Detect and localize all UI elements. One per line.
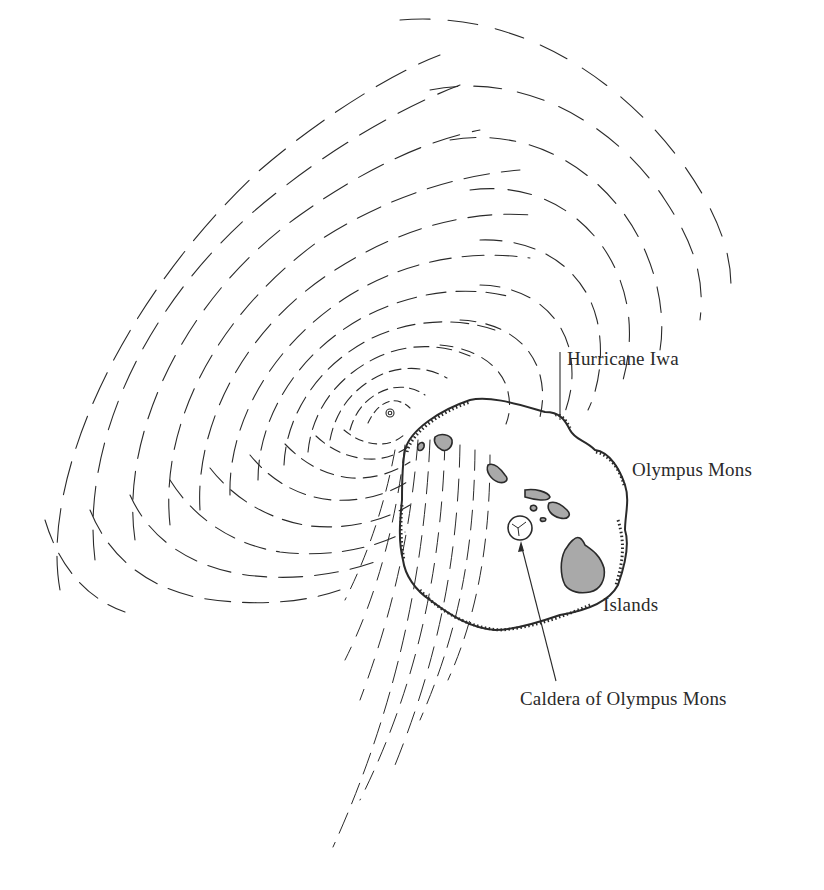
island-hawaii bbox=[561, 538, 604, 593]
olympus-escarpment-hatching bbox=[401, 402, 624, 630]
islands-label: Islands bbox=[603, 595, 658, 614]
caldera bbox=[508, 516, 532, 540]
hurricane-tail bbox=[333, 440, 490, 847]
island-oahu bbox=[487, 464, 507, 482]
island-lanai bbox=[530, 505, 536, 510]
caldera-arrowhead bbox=[518, 541, 524, 552]
island-kahoolawe bbox=[540, 518, 545, 522]
olympus-mons-label: Olympus Mons bbox=[632, 460, 752, 479]
island-kauai bbox=[434, 435, 452, 451]
island-maui bbox=[548, 502, 569, 518]
caldera-leader-line bbox=[521, 544, 556, 681]
olympus-mons-outline bbox=[400, 399, 627, 630]
island-niihau bbox=[418, 443, 425, 451]
island-molokai bbox=[525, 489, 550, 500]
hurricane-spiral bbox=[45, 19, 731, 612]
hawaiian-islands bbox=[418, 435, 605, 593]
hurricane-iwa-label: Hurricane Iwa bbox=[567, 349, 679, 368]
illustration-canvas bbox=[0, 0, 824, 890]
caldera-label: Caldera of Olympus Mons bbox=[520, 689, 727, 708]
